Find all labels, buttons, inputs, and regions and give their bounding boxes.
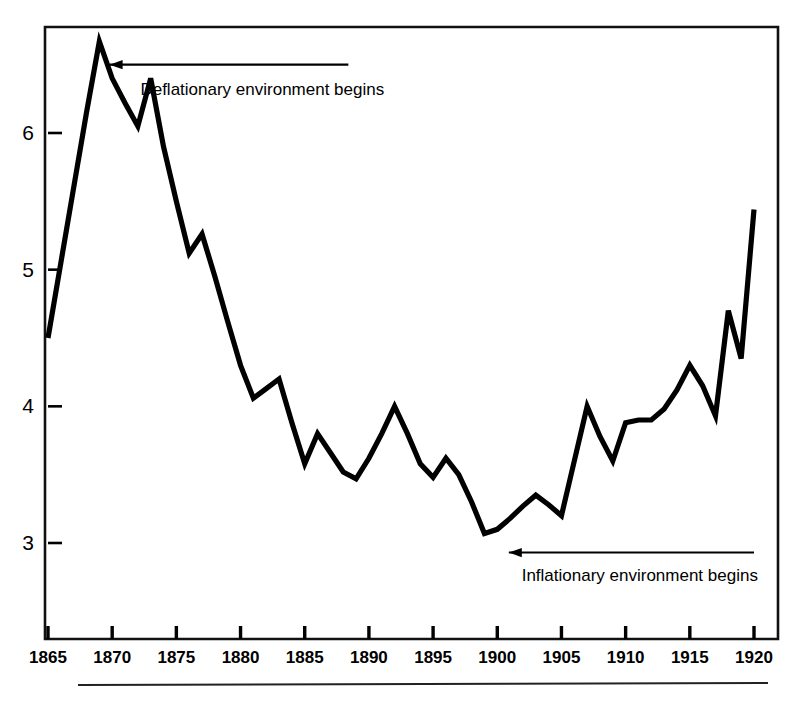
x-tick-label-1865: 1865 [29, 648, 67, 667]
chart-page: 1865187018751880188518901895190019051910… [0, 0, 802, 702]
x-tick-label-1900: 1900 [478, 648, 516, 667]
y-tick-label-5: 5 [22, 258, 34, 281]
x-tick-label-1905: 1905 [543, 648, 581, 667]
x-tick-label-1915: 1915 [671, 648, 709, 667]
y-tick-label-3: 3 [22, 531, 34, 554]
annotation-label-deflation: Deflationary environment begins [140, 80, 384, 99]
x-tick-label-1870: 1870 [93, 648, 131, 667]
chart-canvas: 1865187018751880188518901895190019051910… [0, 0, 802, 702]
chart-background [0, 0, 802, 702]
y-tick-label-6: 6 [22, 121, 34, 144]
annotation-inflation: Inflationary environment begins [509, 548, 758, 585]
x-tick-label-1895: 1895 [414, 648, 452, 667]
x-tick-label-1920: 1920 [735, 648, 773, 667]
x-tick-label-1890: 1890 [350, 648, 388, 667]
annotation-label-inflation: Inflationary environment begins [522, 566, 758, 585]
x-tick-label-1885: 1885 [286, 648, 324, 667]
x-tick-label-1875: 1875 [157, 648, 195, 667]
y-tick-label-4: 4 [22, 394, 34, 417]
x-tick-label-1880: 1880 [222, 648, 260, 667]
line-chart-figure: 1865187018751880188518901895190019051910… [0, 0, 802, 702]
x-tick-label-1910: 1910 [607, 648, 645, 667]
